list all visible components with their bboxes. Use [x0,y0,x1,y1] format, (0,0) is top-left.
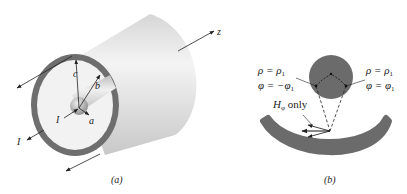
label-z: z [216,26,221,37]
right-phi-label: φ = φ1 [366,79,395,93]
label-b: b [95,80,100,91]
point-top [330,73,332,75]
figure-a: c b a I I z (a) [16,14,221,186]
outer-current-arrow-bottom [66,154,100,171]
h-phi-only-label: Hφ only [272,98,308,112]
label-inner-current: I [55,114,60,125]
inner-conductor-section [309,55,353,99]
h-field-component-lower [308,131,330,137]
left-rho-label: ρ = ρ1 [257,64,285,78]
outer-conductor-arc [263,118,389,152]
right-rho-label: ρ = ρ1 [365,64,393,78]
caption-b: (b) [324,174,336,186]
h-field-component-upper [308,125,330,131]
coaxial-cable-figure: c b a I I z (a) ρ = ρ1 φ = −φ1 ρ = ρ1 φ … [0,0,407,194]
caption-a: (a) [111,174,123,186]
label-outer-current: I [16,136,21,147]
label-c: c [73,68,78,79]
h-label-leader [303,115,313,126]
label-a: a [89,115,94,126]
figure-b: ρ = ρ1 φ = −φ1 ρ = ρ1 φ = φ1 Hφ only (b) [257,55,395,186]
left-phi-label: φ = −φ1 [258,79,295,93]
